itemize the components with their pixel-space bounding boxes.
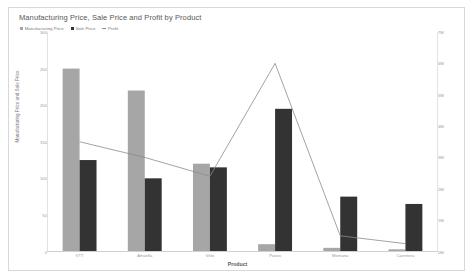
bar-manufacturing-price[interactable] xyxy=(258,244,275,251)
bar-sale-price[interactable] xyxy=(275,109,292,252)
bar-manufacturing-price[interactable] xyxy=(323,248,340,252)
bar-sale-price[interactable] xyxy=(145,178,162,251)
plot-svg xyxy=(9,8,466,272)
bar-sale-price[interactable] xyxy=(210,167,227,251)
bar-sale-price[interactable] xyxy=(80,160,97,251)
x-axis-category-label: Carretera xyxy=(397,253,415,258)
x-axis-category-label: Velo xyxy=(206,253,214,258)
bar-manufacturing-price[interactable] xyxy=(193,164,210,252)
x-axis-category-label: Paseo xyxy=(269,253,281,258)
bar-sale-price[interactable] xyxy=(340,197,357,252)
x-axis-category-label: Montana xyxy=(332,253,348,258)
chart-card: Manufacturing Price, Sale Price and Prof… xyxy=(8,7,465,271)
bar-manufacturing-price[interactable] xyxy=(128,91,145,252)
bars-layer xyxy=(63,69,423,252)
plot-area: Manufacturing Price and Sale Price Produ… xyxy=(9,8,466,272)
x-axis-category-label: Amarilla xyxy=(137,253,152,258)
x-axis-category-label: VTT xyxy=(76,253,84,258)
bar-sale-price[interactable] xyxy=(405,204,422,252)
bar-manufacturing-price[interactable] xyxy=(63,69,80,252)
